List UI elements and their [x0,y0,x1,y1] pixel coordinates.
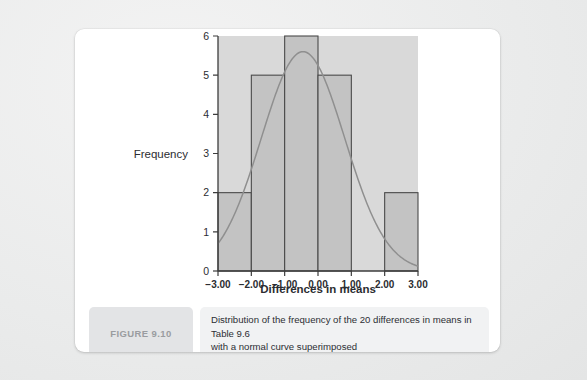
chart-svg: −3.00−2.00−1.000.001.002.003.00 0123456 … [75,29,500,297]
histogram-bar [218,193,251,271]
x-tick-label: 2.00 [375,279,395,290]
y-tick-label: 0 [203,265,209,277]
figure-caption-box: Distribution of the frequency of the 20 … [200,307,489,352]
y-tick-label: 4 [203,108,209,120]
y-tick-label: 6 [203,30,209,42]
y-tick-label: 5 [203,69,209,81]
y-tick-label: 1 [203,226,209,238]
figure-caption-row: FIGURE 9.10 Distribution of the frequenc… [89,307,489,352]
figure-number-badge: FIGURE 9.10 [89,307,193,352]
histogram-bar [285,36,318,271]
y-tick-label: 2 [203,186,209,198]
x-tick-label: 3.00 [408,279,428,290]
y-axis-tick-labels: 0123456 [203,30,209,277]
y-tick-label: 3 [203,147,209,159]
figure-card: −3.00−2.00−1.000.001.002.003.00 0123456 … [75,29,500,352]
figure-number-label: FIGURE 9.10 [110,328,171,339]
figure-caption-line-2: with a normal curve superimposed [211,340,479,352]
figure-caption-line-1: Distribution of the frequency of the 20 … [211,313,479,340]
x-axis-title: Differences in means [260,283,376,295]
histogram-bar [385,193,418,271]
histogram-bar [251,75,284,271]
x-tick-label: −3.00 [205,279,231,290]
y-axis-title: Frequency [134,148,189,160]
histogram-chart: −3.00−2.00−1.000.001.002.003.00 0123456 … [75,29,500,297]
